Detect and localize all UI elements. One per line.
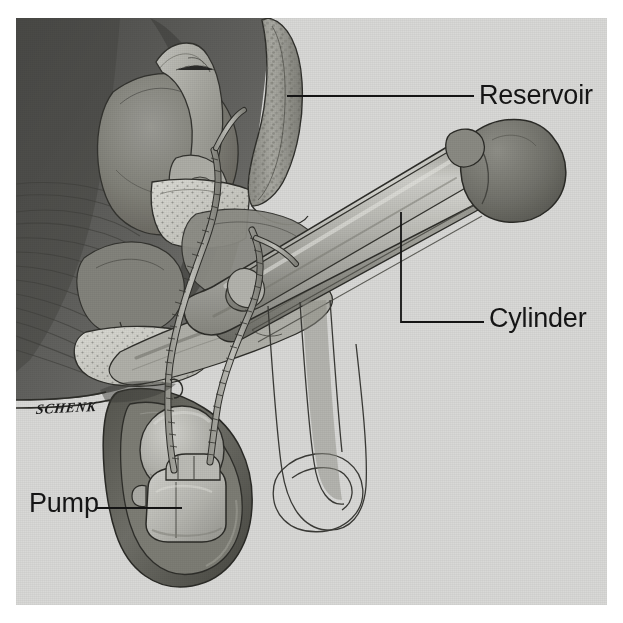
artist-signature: SCHENK bbox=[35, 399, 97, 418]
label-reservoir: Reservoir bbox=[479, 82, 593, 109]
medical-illustration-figure: Reservoir Cylinder Pump SCHENK bbox=[0, 0, 623, 623]
label-pump: Pump bbox=[29, 490, 99, 517]
label-cylinder: Cylinder bbox=[489, 305, 586, 332]
